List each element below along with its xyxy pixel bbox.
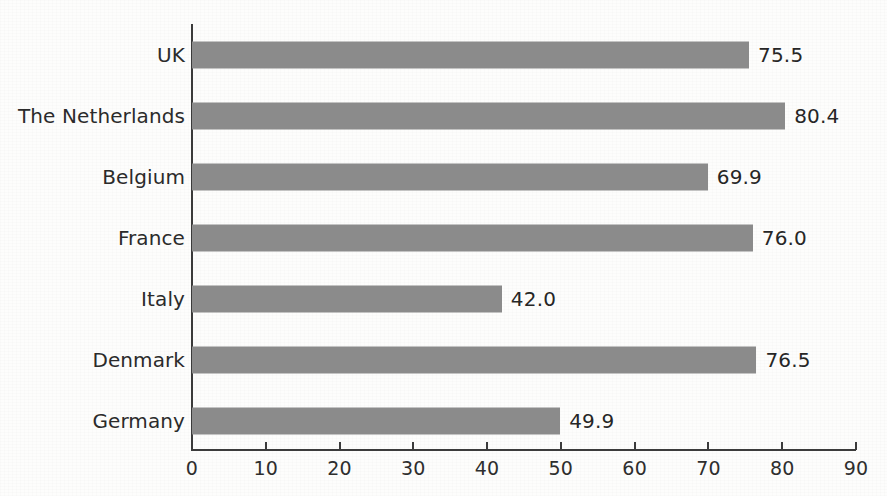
category-label: UK <box>157 43 185 67</box>
bar-row: Germany49.9 <box>0 390 887 452</box>
x-axis-tick <box>634 442 636 450</box>
x-axis-tick <box>412 442 414 450</box>
x-axis-tick-label: 90 <box>844 457 869 479</box>
x-axis-tick <box>707 442 709 450</box>
bar-value-label: 76.0 <box>762 226 807 250</box>
x-axis-tick <box>265 442 267 450</box>
category-label: Germany <box>92 409 185 433</box>
x-axis-tick <box>191 442 193 450</box>
x-axis-tick-label: 30 <box>401 457 426 479</box>
x-axis-tick-label: 60 <box>622 457 647 479</box>
bar-row: France76.0 <box>0 207 887 269</box>
bar <box>192 286 502 313</box>
bar-row: Belgium69.9 <box>0 146 887 208</box>
category-label: The Netherlands <box>18 104 185 128</box>
x-axis-tick <box>486 442 488 450</box>
bar-row: UK75.5 <box>0 24 887 86</box>
bar-row: The Netherlands80.4 <box>0 85 887 147</box>
bar <box>192 103 785 130</box>
bar <box>192 164 708 191</box>
x-axis-tick-label: 0 <box>186 457 198 479</box>
bar-row: Denmark76.5 <box>0 329 887 391</box>
x-axis-tick-label: 40 <box>475 457 500 479</box>
category-label: Belgium <box>102 165 185 189</box>
x-axis-tick-label: 70 <box>696 457 721 479</box>
x-axis-tick <box>339 442 341 450</box>
bar-value-label: 49.9 <box>569 409 614 433</box>
bar-value-label: 76.5 <box>765 348 810 372</box>
x-axis-tick-label: 50 <box>549 457 574 479</box>
x-axis-tick <box>855 442 857 450</box>
bar <box>192 408 560 435</box>
category-label: Italy <box>141 287 185 311</box>
bar <box>192 42 749 69</box>
plot-area: UK75.5The Netherlands80.4Belgium69.9Fran… <box>0 0 887 496</box>
x-axis-tick <box>560 442 562 450</box>
bar <box>192 347 756 374</box>
bar-value-label: 75.5 <box>758 43 803 67</box>
bar <box>192 225 753 252</box>
bar-chart: UK75.5The Netherlands80.4Belgium69.9Fran… <box>0 0 887 496</box>
bar-value-label: 42.0 <box>511 287 556 311</box>
bar-value-label: 69.9 <box>717 165 762 189</box>
x-axis-tick-label: 20 <box>327 457 352 479</box>
bar-row: Italy42.0 <box>0 268 887 330</box>
x-axis-tick-label: 10 <box>253 457 278 479</box>
category-label: France <box>118 226 185 250</box>
x-axis-tick <box>781 442 783 450</box>
category-label: Denmark <box>92 348 185 372</box>
x-axis-tick-label: 80 <box>770 457 795 479</box>
bar-value-label: 80.4 <box>794 104 839 128</box>
